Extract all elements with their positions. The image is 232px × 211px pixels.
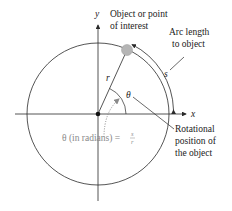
origin-dot: [96, 112, 101, 117]
angle-arc: [110, 89, 126, 115]
circular-motion-diagram: x y r θ s Object or point of interest Ar…: [0, 0, 232, 211]
object-label-line2: of interest: [110, 21, 149, 31]
radius-line: [98, 50, 127, 114]
x-axis-label: x: [190, 109, 196, 119]
dotted-arrow: [104, 99, 119, 137]
object-point: [122, 45, 133, 56]
rotation-label-line2: position of: [175, 136, 217, 146]
rotation-label-line3: the object: [175, 148, 213, 158]
arc-label-line1: Arc length: [169, 27, 210, 37]
theta-label: θ: [126, 90, 131, 100]
formula-lhs: θ (in radians) =: [62, 133, 120, 144]
rotation-label-line1: Rotational: [175, 124, 215, 134]
object-label-line1: Object or point: [110, 9, 168, 19]
arc-leader-line: [170, 57, 184, 70]
formula-numerator: s: [131, 130, 134, 137]
formula-denominator: r: [131, 138, 134, 145]
y-axis-label: y: [94, 9, 100, 19]
arc-label-line2: to object: [172, 39, 205, 49]
radius-label: r: [106, 73, 110, 83]
arc-symbol-label: s: [164, 69, 168, 79]
